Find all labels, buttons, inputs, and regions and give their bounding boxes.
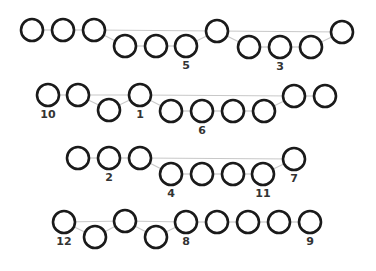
bead-node [98,99,120,121]
connector-line [140,158,294,159]
node-number-label: 9 [306,235,314,248]
bead-node [175,35,197,57]
bead-node [191,163,213,185]
bead-node [129,147,151,169]
bead-node [300,36,322,58]
node-number-label: 7 [290,172,298,185]
bead-node [175,211,197,233]
node-number-label: 10 [40,108,56,121]
bead-node [238,36,260,58]
node-number-label: 8 [182,235,190,248]
bead-node [114,35,136,57]
node-number-label: 5 [182,59,190,72]
bead-node [206,211,228,233]
connector-line [140,95,294,96]
node-number-label: 6 [198,124,206,137]
bead-node [299,211,321,233]
bead-node [37,84,59,106]
connector-line [217,31,342,32]
bead-node [237,211,259,233]
bead-node [252,163,274,185]
bead-node [53,211,75,233]
bead-node [206,20,228,42]
bead-node [160,163,182,185]
bead-node [67,84,89,106]
bead-node [269,36,291,58]
node-number-label: 12 [56,235,71,248]
bead-node [222,100,244,122]
nodes-layer [21,19,353,248]
bead-node [84,226,106,248]
bead-chain-diagram: 531016241171289 [0,0,376,271]
connector-line [94,30,217,31]
bead-node [21,19,43,41]
bead-node [145,35,167,57]
node-number-label: 2 [105,171,113,184]
bead-node [314,85,336,107]
bead-node [268,211,290,233]
bead-node [114,210,136,232]
bead-node [283,148,305,170]
bead-node [83,19,105,41]
node-number-label: 11 [255,187,270,200]
bead-node [67,147,89,169]
bead-node [145,226,167,248]
bead-node [222,163,244,185]
bead-node [191,100,213,122]
bead-node [52,19,74,41]
node-number-label: 1 [136,108,144,121]
bead-node [283,85,305,107]
node-number-label: 4 [167,187,175,200]
bead-node [129,84,151,106]
node-number-label: 3 [276,60,284,73]
bead-node [331,21,353,43]
bead-node [160,100,182,122]
bead-node [98,147,120,169]
bead-node [253,100,275,122]
